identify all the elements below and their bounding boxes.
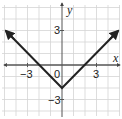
- tick-label-x-3: 3: [93, 68, 99, 80]
- y-axis-label: y: [66, 3, 73, 17]
- x-axis-label: x: [112, 51, 119, 65]
- tick-label-y-neg3: −3: [48, 94, 61, 106]
- origin-label: 0: [54, 68, 60, 80]
- tick-label-y-3: 3: [54, 24, 60, 36]
- coordinate-plane: y x −3 0 3 3 −3: [0, 0, 122, 119]
- tick-label-x-neg3: −3: [20, 68, 33, 80]
- right-arrow-icon: [110, 31, 118, 39]
- left-arrow-icon: [6, 31, 14, 39]
